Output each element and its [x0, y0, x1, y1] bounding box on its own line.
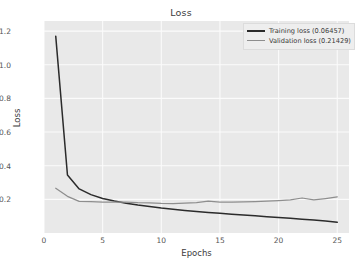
y-tick-label: 1.0	[0, 60, 11, 69]
x-tick-label: 10	[146, 236, 176, 245]
plot-area	[44, 21, 349, 233]
legend-line-icon-training	[247, 30, 265, 32]
y-axis-label: Loss	[12, 93, 22, 143]
series-line-training	[56, 36, 338, 222]
x-tick-label: 25	[322, 236, 352, 245]
data-series	[56, 36, 338, 222]
legend-item-validation[interactable]: Validation loss (0.21429)	[247, 36, 351, 45]
plot-canvas	[44, 21, 349, 233]
page-title: Loss	[0, 7, 362, 18]
x-tick-label: 20	[264, 236, 294, 245]
x-axis-label: Epochs	[44, 248, 349, 258]
y-tick-label: 0.2	[0, 195, 11, 204]
x-tick-label: 5	[88, 236, 118, 245]
legend[interactable]: Training loss (0.06457) Validation loss …	[243, 23, 355, 50]
y-tick-label: 0.6	[0, 128, 11, 137]
y-tick-label: 0.4	[0, 161, 11, 170]
x-tick-label: 0	[29, 236, 59, 245]
y-tick-label: 1.2	[0, 27, 11, 36]
legend-label-validation: Validation loss (0.21429)	[269, 37, 351, 45]
legend-label-training: Training loss (0.06457)	[269, 27, 344, 35]
legend-item-training[interactable]: Training loss (0.06457)	[247, 27, 351, 36]
legend-line-icon-validation	[247, 40, 265, 41]
x-tick-label: 15	[205, 236, 235, 245]
loss-chart-figure: Loss 0.20.40.60.81.01.2 0510152025 Epoch…	[0, 0, 362, 271]
series-line-validation	[56, 188, 338, 203]
y-tick-label: 0.8	[0, 94, 11, 103]
